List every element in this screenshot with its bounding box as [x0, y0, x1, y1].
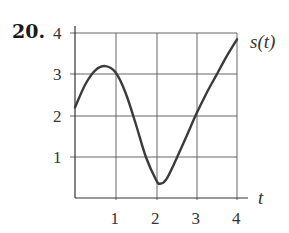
- s-of-t-curve: [75, 39, 237, 184]
- x-tick-label: 1: [111, 209, 120, 228]
- y-tick-label: 2: [53, 107, 62, 126]
- x-tick-label: 2: [151, 209, 160, 228]
- x-tick-labels: 1234: [111, 209, 242, 228]
- axes: [75, 26, 248, 198]
- curve-label: s(t): [250, 31, 275, 53]
- y-tick-label: 4: [53, 24, 62, 43]
- y-tick-labels: 1234: [53, 24, 62, 167]
- x-tick-label: 4: [232, 209, 241, 228]
- chart: 1234 1234 s(t) t: [0, 0, 289, 233]
- y-tick-label: 3: [53, 65, 62, 84]
- x-axis-label: t: [258, 187, 264, 208]
- x-tick-label: 3: [192, 209, 201, 228]
- y-tick-label: 1: [53, 148, 62, 167]
